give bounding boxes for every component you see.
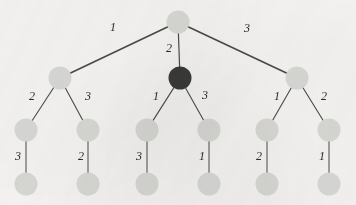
edge-weight-label: 3 bbox=[243, 21, 250, 35]
tree-node[interactable] bbox=[286, 67, 309, 90]
tree-node[interactable] bbox=[49, 67, 72, 90]
tree-edge bbox=[32, 87, 55, 121]
tree-node[interactable] bbox=[15, 119, 38, 142]
tree-diagram-canvas: 123231312323121 bbox=[0, 0, 356, 205]
edge-weight-label: 1 bbox=[110, 20, 116, 34]
tree-node[interactable] bbox=[136, 119, 159, 142]
edge-weight-label: 1 bbox=[199, 149, 205, 163]
edge-weight-label: 2 bbox=[78, 149, 84, 163]
edge-weight-label: 3 bbox=[14, 149, 21, 163]
tree-edge bbox=[65, 87, 83, 121]
tree-node[interactable] bbox=[136, 173, 159, 196]
edge-weight-label: 2 bbox=[321, 89, 327, 103]
tree-node[interactable] bbox=[256, 173, 279, 196]
tree-node[interactable] bbox=[198, 119, 221, 142]
edge-labels-layer: 123231312323121 bbox=[14, 20, 327, 163]
tree-node[interactable] bbox=[198, 173, 221, 196]
edge-weight-label: 2 bbox=[256, 149, 262, 163]
edge-weight-label: 2 bbox=[29, 89, 35, 103]
tree-diagram-svg: 123231312323121 bbox=[0, 0, 356, 205]
edge-weight-label: 1 bbox=[319, 149, 325, 163]
edges-layer bbox=[26, 26, 329, 173]
tree-node[interactable] bbox=[318, 119, 341, 142]
tree-node[interactable] bbox=[256, 119, 279, 142]
tree-node[interactable] bbox=[318, 173, 341, 196]
edge-weight-label: 3 bbox=[84, 89, 91, 103]
tree-edge bbox=[188, 26, 288, 73]
edge-weight-label: 3 bbox=[201, 88, 208, 102]
edge-weight-label: 2 bbox=[166, 41, 172, 55]
tree-node[interactable] bbox=[167, 11, 190, 34]
nodes-layer bbox=[15, 11, 341, 196]
tree-edge bbox=[178, 32, 179, 67]
tree-node[interactable] bbox=[15, 173, 38, 196]
tree-node[interactable] bbox=[77, 119, 100, 142]
tree-edge bbox=[69, 27, 168, 74]
tree-node-highlighted[interactable] bbox=[169, 67, 192, 90]
edge-weight-label: 1 bbox=[274, 89, 280, 103]
edge-weight-label: 1 bbox=[153, 89, 159, 103]
tree-node[interactable] bbox=[77, 173, 100, 196]
edge-weight-label: 3 bbox=[135, 149, 142, 163]
